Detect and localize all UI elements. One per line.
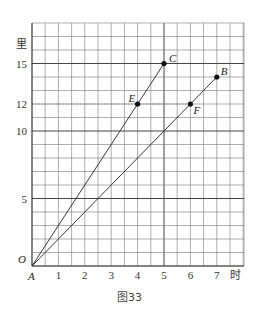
point-C bbox=[161, 61, 166, 66]
x-tick-6: 6 bbox=[188, 269, 194, 281]
x-tick-5: 5 bbox=[161, 269, 167, 281]
data-lines bbox=[32, 61, 219, 266]
x-tick-4: 4 bbox=[135, 269, 141, 281]
y-tick-15: 15 bbox=[16, 58, 28, 70]
x-tick-7: 7 bbox=[214, 269, 220, 281]
x-tick-2: 2 bbox=[82, 269, 88, 281]
point-label-E: E bbox=[128, 92, 136, 104]
point-E bbox=[135, 101, 140, 106]
point-label-B: B bbox=[221, 65, 228, 77]
y-tick-10: 10 bbox=[16, 125, 28, 137]
y-tick-5: 5 bbox=[22, 193, 28, 205]
origin-label-O: O bbox=[18, 253, 26, 265]
x-tick-1: 1 bbox=[56, 269, 62, 281]
y-tick-12: 12 bbox=[16, 98, 27, 110]
x-tick-3: 3 bbox=[108, 269, 114, 281]
point-B bbox=[214, 74, 219, 79]
origin-label-A: A bbox=[27, 270, 35, 282]
figure-caption: 图33 bbox=[0, 288, 259, 304]
labels: 12345675101215里时OACBEF bbox=[16, 38, 241, 282]
point-label-C: C bbox=[169, 52, 177, 64]
point-label-F: F bbox=[192, 104, 200, 116]
x-axis-label: 时 bbox=[230, 269, 241, 282]
point-F bbox=[188, 101, 193, 106]
distance-time-chart: 12345675101215里时OACBEF bbox=[0, 0, 259, 317]
y-axis-label: 里 bbox=[16, 38, 27, 51]
grid bbox=[32, 23, 244, 266]
